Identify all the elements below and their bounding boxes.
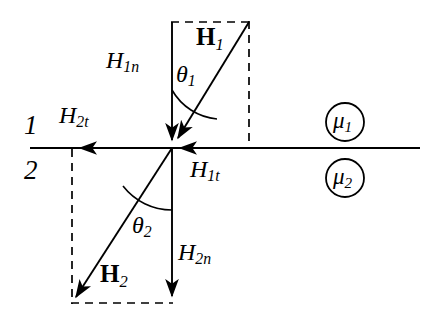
theta-1-arc — [172, 90, 217, 119]
h1t-component-label: H1t — [190, 157, 220, 184]
theta-1-label: θ1 — [176, 62, 196, 89]
region-1-label: 1 — [24, 112, 38, 139]
mu-2-label: μ2 — [333, 165, 352, 190]
h1n-component-label: H1n — [106, 48, 139, 75]
region-2-label: 2 — [24, 157, 38, 184]
theta-2-label: θ2 — [132, 213, 152, 240]
mu-1-label: μ1 — [333, 109, 352, 134]
h2n-component-label: H2n — [178, 240, 211, 267]
theta-2-arc — [123, 186, 172, 210]
magnetic-field-refraction-diagram: 1 2 H2t H1t H1n H2n H1 H2 θ1 θ2 μ1 μ2 — [0, 0, 436, 327]
h1-vector-label: H1 — [196, 24, 224, 53]
h2t-component-label: H2t — [59, 103, 89, 130]
h2-vector-label: H2 — [100, 261, 128, 290]
